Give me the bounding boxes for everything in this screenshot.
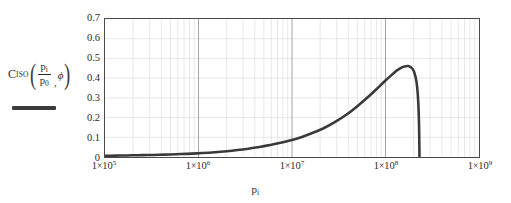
legend-line-swatch — [12, 106, 56, 110]
legend-open-paren: ( — [30, 62, 36, 87]
y-tick-label: 0.6 — [70, 33, 100, 43]
legend-symbol-subscript: ISO — [16, 70, 29, 79]
legend-numerator: pi — [39, 62, 51, 73]
y-tick-label: 0.7 — [70, 13, 100, 23]
x-tick-label: 1×106 — [186, 160, 211, 171]
x-tick-label: 1×109 — [468, 160, 493, 171]
y-tick-label: 0.3 — [70, 93, 100, 103]
x-tick-label: 1×105 — [92, 160, 117, 171]
y-tick-label: 0.2 — [70, 113, 100, 123]
legend-fraction: pi p0 — [38, 62, 51, 88]
y-axis-tick-labels: 0.70.60.50.40.30.20.10 — [68, 18, 100, 158]
x-axis-tick-labels: 1×1051×1061×1071×1081×109 — [0, 160, 511, 180]
x-tick-label: 1×108 — [374, 160, 399, 171]
plot-area — [104, 18, 480, 158]
y-tick-label: 0.5 — [70, 53, 100, 63]
y-tick-label: 0.1 — [70, 133, 100, 143]
x-axis-title: pi — [0, 183, 511, 197]
legend-second-arg: ϕ — [58, 69, 64, 81]
legend-separator: , — [54, 76, 57, 88]
legend-symbol: C — [8, 67, 16, 82]
chart-figure: CISO ( pi p0 , ϕ ) 0.70.60.50.40.30.20.1… — [0, 0, 511, 203]
legend-denominator: p0 — [38, 76, 51, 87]
y-tick-label: 0.4 — [70, 73, 100, 83]
chart-curve — [105, 19, 479, 157]
legend-formula: CISO ( pi p0 , ϕ ) — [8, 62, 71, 88]
x-tick-label: 1×107 — [280, 160, 305, 171]
